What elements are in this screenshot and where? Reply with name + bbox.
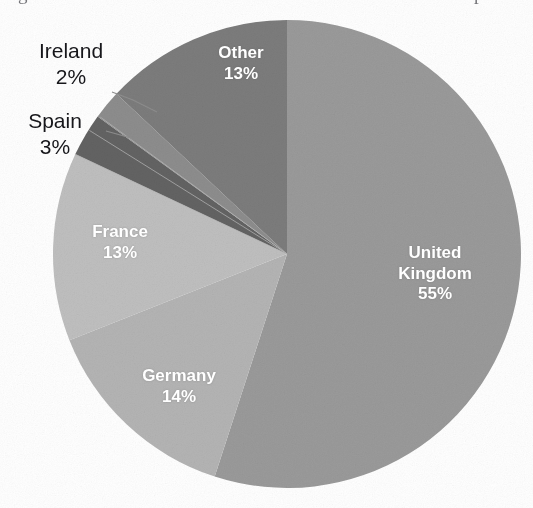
slice-label-spain: Spain 3% bbox=[0, 108, 110, 161]
slice-label-germany: Germany 14% bbox=[104, 366, 254, 407]
slice-value-ireland: 2% bbox=[10, 64, 132, 90]
slice-value-germany: 14% bbox=[104, 387, 254, 408]
slice-label-other: Other 13% bbox=[180, 43, 302, 84]
slice-value-united-kingdom: 55% bbox=[372, 284, 498, 305]
slice-value-other: 13% bbox=[180, 64, 302, 85]
slice-label-france: France 13% bbox=[56, 222, 184, 263]
slice-label-united-kingdom-line2: Kingdom bbox=[372, 264, 498, 285]
pie-chart-figure: g p bbox=[0, 0, 533, 508]
slice-label-germany-text: Germany bbox=[104, 366, 254, 387]
slice-label-ireland-text: Ireland bbox=[10, 38, 132, 64]
slice-label-other-text: Other bbox=[180, 43, 302, 64]
slice-label-spain-text: Spain bbox=[0, 108, 110, 134]
slice-label-united-kingdom: United Kingdom 55% bbox=[372, 243, 498, 305]
slice-label-united-kingdom-line1: United bbox=[372, 243, 498, 264]
slice-label-ireland: Ireland 2% bbox=[10, 38, 132, 91]
slice-label-france-text: France bbox=[56, 222, 184, 243]
slice-value-france: 13% bbox=[56, 243, 184, 264]
slice-value-spain: 3% bbox=[0, 134, 110, 160]
